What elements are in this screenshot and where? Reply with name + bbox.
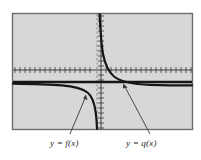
function-graph-figure: y = f(x) y = q(x) — [0, 0, 201, 160]
graph-canvas — [0, 0, 201, 160]
f-function-label: y = f(x) — [50, 138, 79, 148]
q-function-label: y = q(x) — [126, 138, 157, 148]
